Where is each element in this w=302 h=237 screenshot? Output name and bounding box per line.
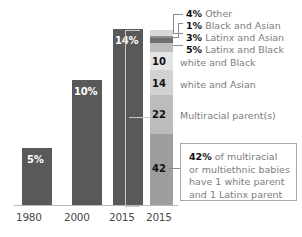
bar-value-2000: 10% [74,87,97,97]
legend-value-black-and-asian: 1% [186,20,202,31]
legend-row-latinx-and-asian: 3% Latinx and Asian [186,33,284,43]
callout-line-1: 42% of multiracial [189,151,288,164]
segment-latinx-and-black [150,43,173,52]
leader-horizontal-latinx-black [173,45,183,46]
segment-label-white-and-asian: white and Asian [180,80,256,90]
legend-row-latinx-and-black: 5% Latinx and Black [186,45,284,55]
legend-value-latinx-and-black: 5% [186,44,202,55]
legend-label-other: Other [205,8,232,19]
leader-horizontal-black-asian [178,23,183,24]
bar-2000 [72,80,102,205]
segment-value-white-and-asian: 14 [152,79,166,89]
leader-horizontal-latinx-asian [173,33,183,34]
legend-label-black-and-asian: Black and Asian [205,20,281,31]
breakdown-x-tick-2015: 2015 [146,212,172,223]
callout-leader-line [168,168,180,169]
bar-value-1980: 5% [27,155,44,165]
legend-row-other: 4% Other [186,9,232,19]
x-tick-2000: 2000 [64,212,90,223]
leader-vertical-black-asian [178,23,179,37]
leader-horizontal-other [173,14,183,15]
legend-value-latinx-and-asian: 3% [186,32,202,43]
legend-value-other: 4% [186,8,202,19]
segment-value-white-and-black: 10 [152,57,166,67]
x-tick-2015: 2015 [109,212,135,223]
legend-label-latinx-and-asian: Latinx and Asian [205,32,284,43]
infographic-root: 5% 10% 14% 1980 2000 2015 2015 [0,0,302,237]
segment-label-white-and-black: white and Black [180,58,256,68]
expand-bracket [125,30,140,207]
callout-line-1-rest: of multiracial [212,151,278,162]
legend-label-latinx-and-black: Latinx and Black [205,44,284,55]
callout-line-3: have 1 white parent [189,176,288,189]
legend-row-black-and-asian: 1% Black and Asian [186,21,281,31]
leader-stub-black-asian [173,37,179,38]
segment-label-multiracial-parents: Multiracial parent(s) [180,111,276,121]
segment-value-white-and-latinx: 42 [152,164,166,174]
callout-line-2: or multiethnic babies [189,164,288,177]
callout-box: 42% of multiracial or multiethnic babies… [180,143,297,201]
breakdown-axis-line [145,205,178,206]
callout-line-4: and 1 Latinx parent [189,189,288,202]
leader-vertical-other [173,14,174,33]
x-tick-1980: 1980 [16,212,42,223]
segment-value-multiracial-parents: 22 [152,110,166,120]
bracket-pointer-line [129,117,150,118]
callout-highlight-value: 42% [189,151,212,162]
